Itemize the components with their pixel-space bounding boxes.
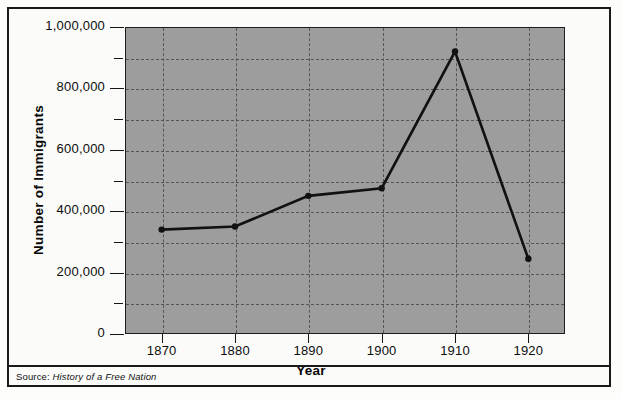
y-axis-major-tick [110, 150, 124, 151]
x-axis-tick-label: 1880 [205, 343, 265, 358]
data-point-marker [378, 185, 384, 191]
y-axis-minor-tick [114, 181, 123, 182]
y-axis-title: Number of Immigrants [31, 105, 46, 255]
immigration-line-chart-figure: 0200,000400,000600,000800,0001,000,000 1… [0, 0, 622, 399]
x-axis-tick [162, 334, 163, 343]
x-axis-tick-label: 1870 [132, 343, 192, 358]
x-axis-tick-label: 1920 [498, 343, 558, 358]
x-axis-tick [382, 334, 383, 343]
y-axis-minor-tick [114, 119, 123, 120]
y-axis-major-tick [110, 334, 124, 335]
y-axis-tick-label: 400,000 [0, 202, 105, 217]
source-title: History of a Free Nation [53, 371, 157, 382]
y-axis-tick-label: 0 [0, 325, 105, 340]
source-label: Source: [16, 371, 50, 382]
y-axis-major-tick [110, 27, 124, 28]
data-point-marker [452, 48, 458, 54]
x-axis-tick-label: 1900 [352, 343, 412, 358]
data-point-marker [232, 223, 238, 229]
y-axis-minor-tick [114, 242, 123, 243]
plot-container: 0200,000400,000600,000800,0001,000,000 1… [0, 0, 622, 399]
y-axis-tick-label: 1,000,000 [0, 18, 105, 33]
x-axis-tick [308, 334, 309, 343]
data-point-marker [158, 226, 164, 232]
y-axis-major-tick [110, 211, 124, 212]
data-point-marker [305, 193, 311, 199]
x-axis-tick [235, 334, 236, 343]
y-axis-major-tick [110, 88, 124, 89]
source-divider [9, 365, 609, 367]
y-axis-tick-label: 200,000 [0, 264, 105, 279]
data-point-marker [525, 256, 531, 262]
series-line [162, 52, 529, 259]
y-axis-tick-label: 800,000 [0, 79, 105, 94]
y-axis-tick-label: 600,000 [0, 141, 105, 156]
source-note: Source: History of a Free Nation [16, 371, 157, 382]
y-axis-minor-tick [114, 303, 123, 304]
x-axis-tick [528, 334, 529, 343]
data-series-layer [125, 27, 565, 334]
x-axis-tick [455, 334, 456, 343]
x-axis-tick-label: 1890 [278, 343, 338, 358]
x-axis-tick-label: 1910 [425, 343, 485, 358]
y-axis-major-tick [110, 273, 124, 274]
y-axis-minor-tick [114, 58, 123, 59]
